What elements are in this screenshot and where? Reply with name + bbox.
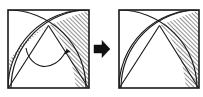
implies-arrow-icon xyxy=(94,41,110,58)
right-panel-hatched-region xyxy=(160,10,200,88)
panel-after xyxy=(119,10,199,88)
panel-before xyxy=(8,10,89,88)
geometry-figure: Curvilinear triangle area equivalence Tw… xyxy=(0,0,203,97)
diagram-canvas xyxy=(0,0,203,97)
left-panel-right-hatched-region xyxy=(49,10,90,88)
left-panel-left-hatched-region xyxy=(8,26,49,71)
